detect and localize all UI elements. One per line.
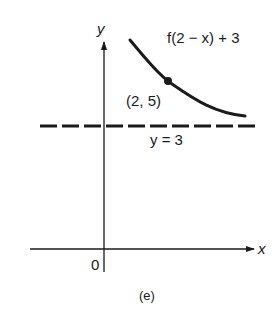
point-label: (2, 5) xyxy=(126,92,161,109)
y-axis-label: y xyxy=(96,20,106,37)
curve-label: f(2 − x) + 3 xyxy=(167,29,240,46)
asymptote-label: y = 3 xyxy=(150,131,183,148)
point-marker xyxy=(164,77,172,85)
origin-label: 0 xyxy=(91,256,99,273)
x-axis-label: x xyxy=(257,240,266,257)
graph-diagram: y f(2 − x) + 3 (2, 5) y = 3 x 0 (e) xyxy=(0,0,279,316)
caption: (e) xyxy=(139,288,155,303)
